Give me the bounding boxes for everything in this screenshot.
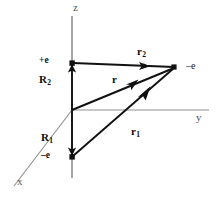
positive-charge-label: +e (39, 56, 49, 66)
x-axis-label: x (17, 176, 23, 187)
negative-charge-label: –e (41, 151, 50, 161)
vector-R1-label: R1 (41, 132, 53, 143)
negative-charge-dot (69, 154, 74, 159)
positive-charge-dot (69, 60, 74, 65)
vector-r-line (72, 68, 174, 110)
vector-R2-label: R2 (39, 74, 51, 85)
y-axis-label: y (196, 112, 202, 123)
vector-R1-label-text: R (41, 131, 49, 143)
axis-lines (14, 16, 209, 186)
field-point-charge-label: –e (186, 61, 195, 71)
vector-R1-label-sub: 1 (49, 136, 53, 145)
diagram-canvas (0, 0, 219, 199)
vector-r1-label: r1 (131, 126, 140, 137)
vector-r2-label: r2 (137, 46, 146, 57)
dipole-vector-diagram: z y x +e –e –e R2 R1 r r1 r2 (0, 0, 219, 199)
z-axis-label: z (73, 2, 78, 13)
vector-R2-label-text: R (39, 73, 47, 85)
vector-lines (72, 62, 174, 156)
field-point-dot (171, 64, 176, 69)
vector-r-label-text: r (112, 73, 117, 85)
vector-r1-line (73, 68, 174, 156)
vector-r-arrowhead (126, 79, 139, 90)
vector-r1-label-sub: 1 (136, 130, 140, 139)
vector-R2-label-sub: 2 (47, 78, 51, 87)
vector-r2-label-sub: 2 (142, 50, 146, 59)
vector-r-label: r (112, 74, 117, 85)
vector-r2-line (73, 63, 174, 67)
